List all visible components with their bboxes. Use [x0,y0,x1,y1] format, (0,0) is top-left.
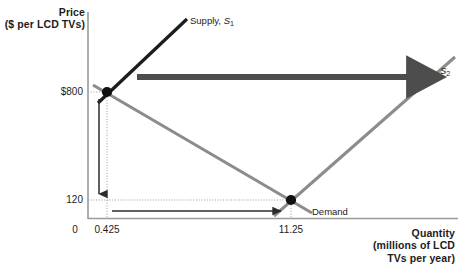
y-tick-label-800: $800 [40,86,83,98]
supply2-label-subscript: 2 [446,69,450,78]
supply1-label-subscript: 1 [230,19,234,28]
guide-lines [88,92,291,218]
y-tick-label-120: 120 [40,194,83,206]
supply-demand-figure: Price ($ per LCD TVs) Quantity (millions… [0,0,462,270]
equilibrium-point-new [286,195,296,205]
supply1-label-text: Supply, [190,15,224,26]
x-axis-title-line2: (millions of LCD [330,239,455,251]
x-tick-label-q1: 0.425 [86,224,128,236]
x-tick-label-q2: 11.25 [270,224,312,236]
x-axis-title-line3: TVs per year) [330,252,455,264]
x-axis-title-line1: Quantity [330,227,455,239]
x-origin-label: 0 [68,224,82,236]
y-axis-title: Price ($ per LCD TVs) [0,6,85,31]
y-axis-title-line1: Price [0,6,85,18]
supply2-curve [274,57,455,216]
equilibrium-point-initial [102,87,112,97]
supply1-curve-label: Supply, S1 [190,15,234,26]
demand-curve-label: Demand [312,206,348,217]
demand-curve [93,85,312,213]
x-axis-title: Quantity (millions of LCD TVs per year) [330,227,455,264]
supply2-curve-label: S2 [440,65,450,76]
y-axis-title-line2: ($ per LCD TVs) [0,18,85,30]
